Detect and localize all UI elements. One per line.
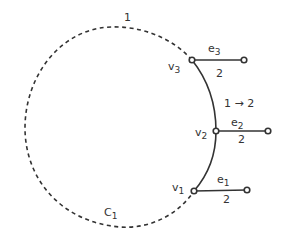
cycle-dashed-arc: [25, 27, 194, 227]
edge-label-e2: e2: [231, 117, 244, 131]
endpoint-e1: [244, 187, 250, 193]
edge-weight-e1: 2: [223, 194, 230, 205]
edge-weight-e2: 2: [238, 134, 245, 145]
cycle-label-c1: C1: [104, 207, 117, 221]
vertex-label-v3: v3: [168, 61, 180, 75]
edge-label-e3: e3: [208, 43, 221, 57]
diagram-canvas: 1 v3 e3 2 1 → 2 v2 e2 2 v1 e1 2 C1: [0, 0, 286, 240]
vertex-v2: [213, 128, 219, 134]
edge-weight-e3: 2: [216, 68, 223, 79]
vertex-label-v1: v1: [172, 182, 184, 196]
dashed-arc-label: 1: [124, 12, 131, 23]
edge-e1: [194, 190, 247, 191]
solid-arc-label: 1 → 2: [224, 98, 254, 109]
endpoint-e3: [241, 57, 247, 63]
endpoint-e2: [265, 128, 271, 134]
vertex-v3: [189, 57, 195, 63]
vertex-label-v2: v2: [195, 127, 207, 141]
vertex-v1: [191, 188, 197, 194]
edge-label-e1: e1: [217, 174, 230, 188]
